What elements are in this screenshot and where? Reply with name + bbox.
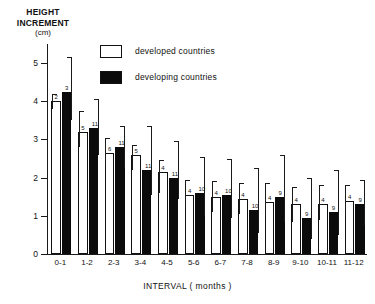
- error-bar-cap-9-10-developed: [292, 187, 297, 188]
- error-bar-cap-8-9-developing: [280, 155, 285, 156]
- bar-group-11-12: 49: [345, 44, 365, 254]
- sample-size-1-2-developed: 5: [81, 125, 84, 131]
- bar-group-3-4: 511: [131, 44, 151, 254]
- sample-size-11-12-developing: 9: [358, 197, 361, 203]
- height-increment-bar-chart: HEIGHT INCREMENT (cm) developed countrie…: [0, 0, 375, 304]
- error-bar-3-4-developing: [151, 126, 152, 195]
- sample-size-3-4-developed: 5: [135, 148, 138, 154]
- error-bar-cap-1-2-developed: [79, 111, 84, 112]
- x-tick-label-6-7: 6-7: [207, 259, 234, 267]
- error-bar-8-9-developing: [284, 155, 285, 222]
- sample-size-0-1-developing: 3: [65, 85, 68, 91]
- sample-size-7-8-developed: 4: [241, 192, 244, 198]
- x-tick-label-9-10: 9-10: [287, 259, 314, 267]
- error-bar-cap-6-7-developing: [227, 159, 232, 160]
- error-bar-cap-11-12-developed: [345, 185, 350, 186]
- sample-size-11-12-developed: 4: [348, 194, 351, 200]
- y-tick-label-3: 3: [20, 135, 38, 144]
- bar-group-2-3: 611: [105, 44, 125, 254]
- y-tick-0: [41, 254, 47, 255]
- error-bar-6-7-developed: [212, 181, 213, 212]
- x-tick-label-3-4: 3-4: [127, 259, 154, 267]
- sample-size-4-5-developing: 11: [172, 171, 178, 177]
- x-tick-label-2-3: 2-3: [100, 259, 127, 267]
- bar-1-2-developed: [78, 132, 88, 254]
- error-bar-7-8-developing: [258, 168, 259, 233]
- error-bar-10-11-developing: [338, 170, 339, 235]
- bar-group-6-7: 410: [211, 44, 231, 254]
- error-bar-cap-8-9-developed: [265, 183, 270, 184]
- x-axis-line: [47, 254, 367, 255]
- y-tick-label-1: 1: [20, 212, 38, 221]
- sample-size-4-5-developed: 4: [161, 165, 164, 171]
- sample-size-2-3-developed: 6: [108, 146, 111, 152]
- bar-group-8-9: 49: [265, 44, 285, 254]
- error-bar-4-5-developed: [159, 160, 160, 192]
- sample-size-6-7-developed: 4: [215, 190, 218, 196]
- error-bar-cap-0-1-developing: [67, 57, 72, 58]
- sample-size-3-4-developing: 11: [145, 163, 151, 169]
- sample-size-8-9-developing: 9: [278, 190, 281, 196]
- error-bar-cap-3-4-developing: [147, 126, 152, 127]
- sample-size-6-7-developing: 10: [225, 188, 232, 194]
- bar-group-9-10: 49: [291, 44, 311, 254]
- error-bar-cap-2-3-developed: [105, 138, 110, 139]
- sample-size-9-10-developed: 4: [295, 197, 298, 203]
- error-bar-cap-4-5-developing: [174, 141, 179, 142]
- error-bar-cap-1-2-developing: [94, 99, 99, 100]
- bar-group-10-11: 49: [318, 44, 338, 254]
- bar-0-1-developed: [51, 101, 61, 254]
- error-bar-11-12-developed: [345, 185, 346, 216]
- error-bar-8-9-developed: [265, 183, 266, 215]
- y-tick-label-4: 4: [20, 97, 38, 106]
- error-bar-2-3-developed: [105, 138, 106, 167]
- sample-size-10-11-developing: 9: [332, 205, 335, 211]
- bar-group-7-8: 410: [238, 44, 258, 254]
- bar-group-5-6: 410: [185, 44, 205, 254]
- bar-group-1-2: 511: [78, 44, 98, 254]
- error-bar-9-10-developing: [311, 178, 312, 239]
- error-bar-cap-3-4-developed: [132, 145, 137, 146]
- error-bar-cap-6-7-developed: [212, 181, 217, 182]
- sample-size-8-9-developed: 4: [268, 195, 271, 201]
- x-tick-label-5-6: 5-6: [180, 259, 207, 267]
- error-bar-2-3-developing: [124, 126, 125, 168]
- error-bar-cap-7-8-developed: [239, 183, 244, 184]
- error-bar-9-10-developed: [292, 187, 293, 221]
- bar-group-4-5: 411: [158, 44, 178, 254]
- y-axis-title: HEIGHT INCREMENT (cm): [4, 7, 82, 39]
- plot-area: 2351161151141141041041049494949: [47, 44, 367, 254]
- error-bar-cap-2-3-developing: [120, 126, 125, 127]
- x-tick-label-10-11: 10-11: [314, 259, 341, 267]
- y-tick-label-2: 2: [20, 174, 38, 183]
- y-axis-title-line2: INCREMENT: [4, 18, 82, 29]
- error-bar-1-2-developing: [98, 99, 99, 154]
- sample-size-2-3-developing: 11: [118, 140, 124, 146]
- error-bar-cap-5-6-developed: [185, 180, 190, 181]
- y-axis-unit: (cm): [4, 28, 82, 39]
- sample-size-9-10-developing: 9: [305, 211, 308, 217]
- error-bar-cap-4-5-developed: [159, 160, 164, 161]
- error-bar-10-11-developed: [319, 185, 320, 219]
- error-bar-cap-10-11-developing: [334, 170, 339, 171]
- x-tick-label-0-1: 0-1: [47, 259, 74, 267]
- error-bar-0-1-developed: [52, 94, 53, 109]
- sample-size-0-1-developed: 2: [55, 94, 58, 100]
- x-axis-title: INTERVAL ( months ): [0, 281, 375, 291]
- error-bar-3-4-developed: [132, 145, 133, 170]
- error-bar-5-6-developed: [185, 180, 186, 209]
- x-tick-label-1-2: 1-2: [74, 259, 101, 267]
- sample-size-5-6-developing: 10: [198, 186, 205, 192]
- bar-2-3-developed: [105, 153, 115, 254]
- sample-size-10-11-developed: 4: [321, 197, 324, 203]
- error-bar-7-8-developed: [239, 183, 240, 214]
- x-tick-label-7-8: 7-8: [234, 259, 261, 267]
- error-bar-11-12-developing: [364, 180, 365, 226]
- error-bar-cap-5-6-developing: [200, 157, 205, 158]
- error-bar-cap-10-11-developed: [319, 185, 324, 186]
- error-bar-cap-7-8-developing: [254, 168, 259, 169]
- error-bar-cap-9-10-developing: [307, 178, 312, 179]
- error-bar-0-1-developing: [71, 57, 72, 120]
- x-tick-label-11-12: 11-12: [340, 259, 367, 267]
- error-bar-1-2-developed: [79, 111, 80, 147]
